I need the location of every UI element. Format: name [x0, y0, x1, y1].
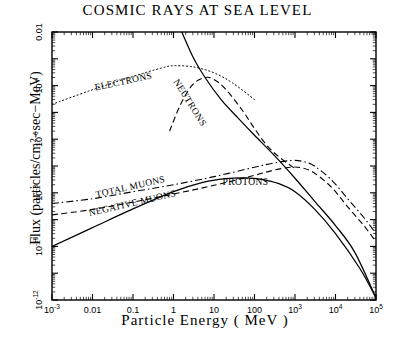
curve-primary-spectrum: [182, 32, 376, 298]
x-tick-label: 10-3: [44, 303, 60, 315]
y-tick-label: 10-10: [32, 236, 44, 256]
curve-label-electrons: ELECTRONS: [94, 71, 153, 93]
plot-canvas: 10-30.010.11101001031041050.0110-410-610…: [0, 0, 395, 337]
curve-electrons: [52, 66, 255, 105]
curve-label-protons: PROTONS: [223, 177, 269, 187]
x-tick-label: 0.01: [84, 305, 102, 315]
x-tick-label: 103: [288, 303, 302, 315]
axis-frame: [52, 32, 376, 300]
curve-negative-muons: [52, 167, 376, 242]
curve-label-neutrons: NEUTRONS: [171, 77, 208, 128]
y-tick-label: 10-8: [32, 185, 44, 201]
y-tick-label: 10-6: [32, 131, 44, 147]
x-tick-label: 104: [329, 303, 343, 315]
cosmic-ray-flux-figure: COSMIC RAYS AT SEA LEVEL Flux (particles…: [0, 0, 395, 337]
y-tick-label: 0.01: [34, 23, 44, 41]
y-tick-label: 10-4: [32, 77, 44, 93]
x-tick-label: 10: [209, 305, 219, 315]
x-tick-label: 1: [171, 305, 176, 315]
x-tick-label: 100: [247, 305, 262, 315]
x-tick-label: 0.1: [127, 305, 140, 315]
y-tick-label: 10-12: [32, 290, 44, 310]
x-tick-label: 105: [369, 303, 383, 315]
